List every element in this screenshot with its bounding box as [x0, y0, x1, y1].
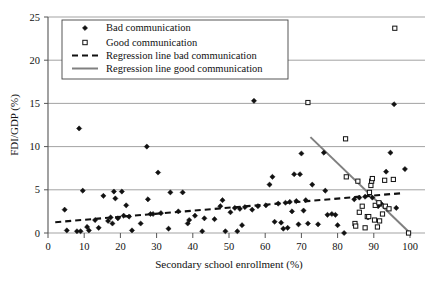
regression-line-bad — [55, 193, 401, 222]
data-point-bad — [80, 188, 85, 193]
legend-marker-good-point — [83, 40, 87, 44]
data-point-good — [380, 212, 384, 216]
legend-label-bad-points: Bad communication — [106, 22, 192, 33]
x-tick-label-10: 10 — [79, 241, 90, 252]
data-point-bad — [391, 102, 396, 107]
data-point-bad — [276, 201, 281, 206]
data-point-bad — [394, 205, 399, 210]
x-tick-label-90: 90 — [369, 241, 380, 252]
data-point-bad — [279, 220, 284, 225]
chart-legend: Bad communicationGood communicationRegre… — [62, 20, 288, 79]
chart-container: 0510152025 0102030405060708090100 Bad co… — [0, 0, 431, 282]
y-axis-tick-labels: 0510152025 — [30, 12, 41, 239]
data-point-bad — [323, 188, 328, 193]
data-point-good — [344, 175, 348, 179]
y-tick-label-5: 5 — [35, 184, 40, 195]
data-point-bad — [283, 200, 288, 205]
data-point-bad — [251, 98, 256, 103]
data-point-bad — [325, 212, 330, 217]
data-point-bad — [289, 209, 294, 214]
data-point-good — [393, 26, 397, 30]
data-points-bad-communication — [62, 98, 407, 235]
x-tick-label-50: 50 — [224, 241, 235, 252]
data-point-good — [372, 218, 376, 222]
x-tick-label-100: 100 — [402, 241, 418, 252]
data-point-good — [306, 100, 310, 104]
x-tick-label-40: 40 — [188, 241, 199, 252]
legend-label-bad-regression: Regression line bad communication — [106, 50, 258, 61]
data-points-good-communication — [306, 26, 411, 235]
data-point-good — [377, 219, 381, 223]
data-point-bad — [250, 207, 255, 212]
data-point-bad — [301, 208, 306, 213]
data-point-bad — [64, 228, 69, 233]
x-tick-label-70: 70 — [296, 241, 307, 252]
legend-label-good-points: Good communication — [106, 37, 198, 48]
data-point-good — [369, 183, 373, 187]
data-point-good — [356, 179, 360, 183]
data-point-bad — [402, 166, 407, 171]
y-tick-label-10: 10 — [30, 141, 41, 152]
x-axis-title: Secondary school enrollment (%) — [155, 258, 303, 271]
data-point-good — [343, 137, 347, 141]
data-point-bad — [285, 225, 290, 230]
data-point-good — [370, 176, 374, 180]
data-point-bad — [124, 203, 129, 208]
x-tick-label-0: 0 — [45, 241, 50, 252]
x-tick-label-20: 20 — [115, 241, 126, 252]
data-point-good — [363, 226, 367, 230]
data-point-good — [357, 210, 361, 214]
data-point-good — [387, 207, 391, 211]
x-tick-label-60: 60 — [260, 241, 271, 252]
data-point-bad — [155, 170, 160, 175]
data-point-bad — [121, 213, 126, 218]
data-point-bad — [113, 196, 118, 201]
data-point-bad — [270, 174, 275, 179]
y-tick-label-15: 15 — [30, 98, 41, 109]
data-point-bad — [212, 217, 217, 222]
data-point-bad — [77, 126, 82, 131]
data-point-bad — [202, 216, 207, 221]
data-point-bad — [357, 195, 362, 200]
y-axis-title: FDI/GDP (%) — [8, 94, 21, 156]
data-point-bad — [272, 219, 277, 224]
data-point-good — [354, 224, 358, 228]
data-point-bad — [180, 190, 185, 195]
data-point-bad — [176, 209, 181, 214]
data-point-bad — [101, 193, 106, 198]
y-tick-label-20: 20 — [30, 55, 41, 66]
data-point-good — [406, 231, 410, 235]
data-point-good — [375, 225, 379, 229]
data-point-bad — [166, 226, 171, 231]
data-point-bad — [138, 221, 143, 226]
data-point-good — [377, 201, 381, 205]
x-tick-label-30: 30 — [151, 241, 162, 252]
data-point-good — [383, 178, 387, 182]
data-point-bad — [299, 151, 304, 156]
data-point-good — [367, 190, 371, 194]
data-point-bad — [126, 214, 131, 219]
data-point-bad — [144, 144, 149, 149]
data-point-bad — [342, 230, 347, 235]
data-point-bad — [310, 182, 315, 187]
y-tick-label-0: 0 — [35, 228, 40, 239]
data-point-bad — [292, 172, 297, 177]
data-point-bad — [145, 197, 150, 202]
data-point-good — [367, 214, 371, 218]
data-point-bad — [388, 150, 393, 155]
data-point-bad — [384, 169, 389, 174]
data-point-bad — [335, 223, 340, 228]
scatter-plot: 0510152025 0102030405060708090100 Bad co… — [0, 0, 431, 282]
data-point-bad — [129, 228, 134, 233]
data-point-bad — [297, 172, 302, 177]
data-point-bad — [239, 223, 244, 228]
data-point-good — [391, 177, 395, 181]
data-point-bad — [305, 221, 310, 226]
data-point-bad — [168, 190, 173, 195]
data-point-bad — [158, 211, 163, 216]
data-point-good — [360, 204, 364, 208]
data-point-bad — [96, 225, 101, 230]
data-point-bad — [315, 222, 320, 227]
data-point-bad — [192, 213, 197, 218]
data-point-bad — [267, 182, 272, 187]
